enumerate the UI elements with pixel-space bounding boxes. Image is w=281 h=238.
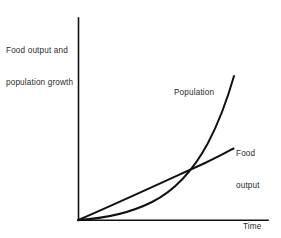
series-label-food-output-line-1: Food bbox=[236, 149, 260, 160]
x-axis-label: Time bbox=[243, 222, 262, 233]
y-axis-label-line-1: Food output and bbox=[6, 46, 73, 57]
y-axis-label-line-2: population growth bbox=[6, 78, 73, 89]
y-axis-label: Food output and population growth bbox=[6, 25, 73, 109]
series-label-food-output: Food output bbox=[236, 128, 260, 212]
series-label-food-output-line-2: output bbox=[236, 181, 260, 192]
series-label-population: Population bbox=[174, 88, 214, 99]
chart-figure: Food output and population growth Popula… bbox=[0, 0, 281, 238]
